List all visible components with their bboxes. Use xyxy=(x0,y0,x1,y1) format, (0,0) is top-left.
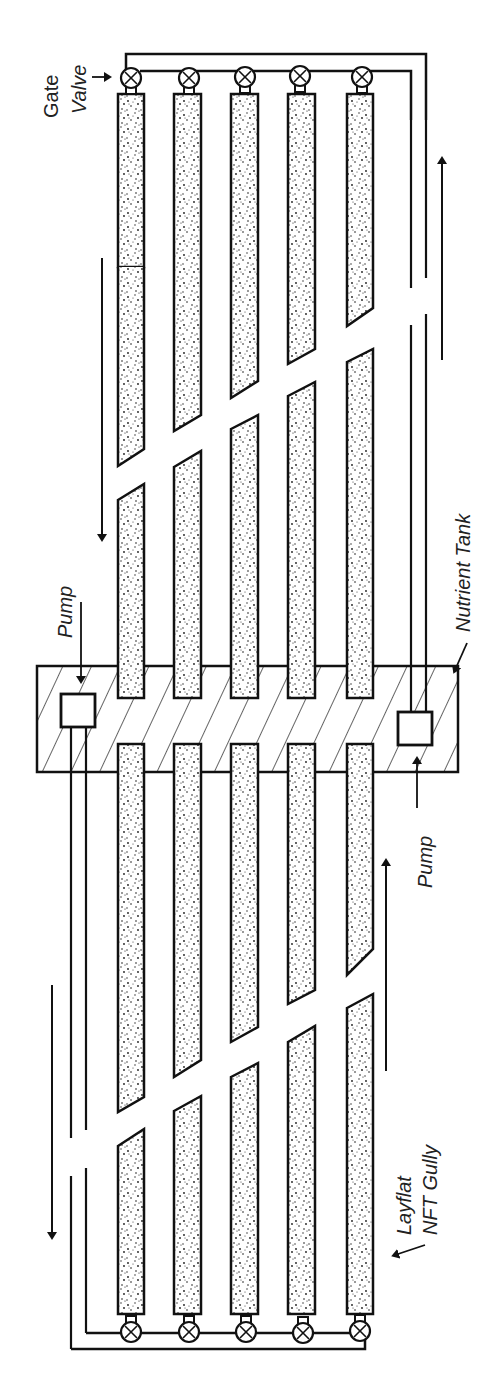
bottom-manifold-pipes xyxy=(71,1333,365,1349)
nutrient-tank-label: Nutrient Tank xyxy=(452,513,474,632)
top-outer-pipe xyxy=(126,54,426,120)
gully-bottom-3 xyxy=(231,744,258,1314)
gate-valve-label-2: Valve xyxy=(68,65,90,114)
gate-valve-icon xyxy=(121,68,141,94)
gate-valve-icon xyxy=(121,1316,141,1342)
gully-top-4 xyxy=(288,94,315,698)
gully-label-2: NFT Gully xyxy=(419,1144,441,1235)
nutrient-tank-leader-arrow xyxy=(455,643,467,670)
gully-leader-arrow xyxy=(395,1245,425,1255)
gate-valve-icon xyxy=(290,66,310,92)
gullies-top xyxy=(118,94,373,698)
pump-right-label: Pump xyxy=(414,836,436,888)
bottom-outer-pipe xyxy=(71,1338,365,1349)
gate-valve-icon xyxy=(236,1316,256,1342)
gate-valve-icon xyxy=(235,67,255,93)
gully-label-1: Layflat xyxy=(393,1175,415,1235)
gully-top-1 xyxy=(118,94,144,698)
gate-valves-bottom[interactable] xyxy=(121,1315,370,1343)
gully-top-5 xyxy=(347,94,373,698)
gate-valve-icon xyxy=(293,1317,313,1343)
top-manifold-pipes xyxy=(126,54,426,120)
right-supply-pipe xyxy=(411,120,426,712)
gate-valve-icon xyxy=(179,1316,199,1342)
gully-bottom-4 xyxy=(288,744,315,1314)
pump-left[interactable] xyxy=(61,694,95,727)
nft-system-diagram: Gate Valve Pump Pump Nutrient Tank Layfl… xyxy=(0,0,501,1385)
gate-valve-icon xyxy=(350,1315,370,1341)
gate-valve-icon xyxy=(179,68,199,94)
gate-valve-icon xyxy=(352,67,372,93)
gully-top-2 xyxy=(174,94,201,698)
gully-bottom-2 xyxy=(174,744,201,1314)
gate-valve-label-1: Gate xyxy=(40,75,62,118)
left-supply-pipe xyxy=(71,727,86,1349)
pump-right[interactable] xyxy=(398,712,432,745)
gully-bottom-1 xyxy=(118,744,144,1314)
gully-top-3 xyxy=(231,94,258,698)
gullies-bottom xyxy=(118,744,373,1314)
gully-bottom-5 xyxy=(347,744,373,1314)
pump-left-label: Pump xyxy=(54,586,76,638)
